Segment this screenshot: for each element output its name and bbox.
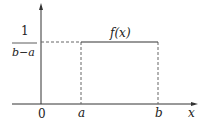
function-label: f(x): [110, 27, 131, 39]
b-label: b: [155, 107, 163, 119]
x-axis: [12, 102, 198, 106]
y-axis: [39, 3, 43, 104]
diagram-graphics: [0, 0, 208, 122]
origin-label: 0: [38, 108, 46, 120]
height-numerator: 1: [21, 25, 29, 37]
a-label: a: [78, 107, 85, 119]
uniform-density-diagram: 1 b−a f(x) 0 a b x: [0, 0, 208, 122]
height-denominator: b−a: [12, 47, 35, 58]
x-axis-label: x: [188, 107, 195, 119]
